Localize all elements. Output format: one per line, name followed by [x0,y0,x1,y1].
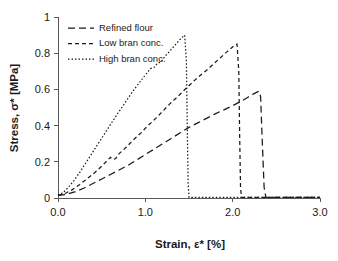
data-series-group [58,35,320,197]
y-tick-label: 0.6 [35,83,50,95]
y-tick-label: 0.4 [35,120,50,132]
y-axis: 00.20.40.60.81 [35,11,58,204]
x-tick-label: 0.0 [50,206,65,218]
legend-label-1: Low bran conc. [99,37,163,48]
series-line-high-bran-conc [58,35,320,197]
stress-strain-chart-figure: 00.20.40.60.81 0.01.02.03.0 Refined flou… [0,0,338,261]
y-tick-label: 0.8 [35,47,50,59]
y-tick-label: 1 [44,11,50,23]
y-tick-label: 0 [44,192,50,204]
series-line-refined-flour [58,91,320,197]
y-tick-label: 0.2 [35,156,50,168]
y-axis-title: Stress, σ* [MPa] [8,64,20,153]
legend-label-2: High bran conc. [99,53,166,64]
x-axis: 0.01.02.03.0 [50,198,327,218]
x-axis-title: Strain, ε* [%] [155,238,225,250]
x-tick-label: 2.0 [225,206,240,218]
x-tick-label: 3.0 [312,206,327,218]
chart-canvas: 00.20.40.60.81 0.01.02.03.0 Refined flou… [0,0,338,261]
legend-label-0: Refined flour [99,22,153,33]
x-tick-label: 1.0 [138,206,153,218]
chart-legend: Refined flourLow bran conc.High bran con… [68,22,166,64]
series-line-low-bran-conc [58,44,320,197]
